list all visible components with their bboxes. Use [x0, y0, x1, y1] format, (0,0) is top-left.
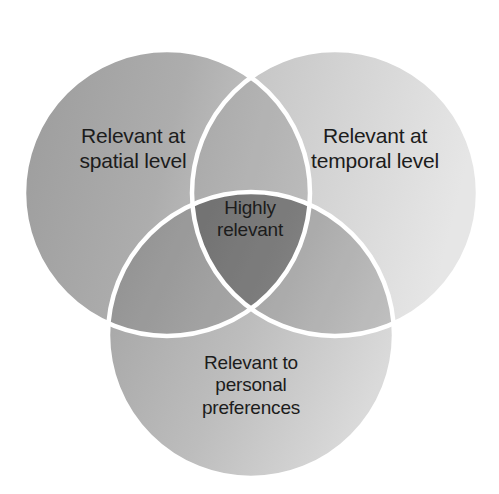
venn-diagram-svg — [0, 0, 499, 494]
venn-diagram-figure: Relevant at spatial level Relevant at te… — [0, 0, 499, 494]
